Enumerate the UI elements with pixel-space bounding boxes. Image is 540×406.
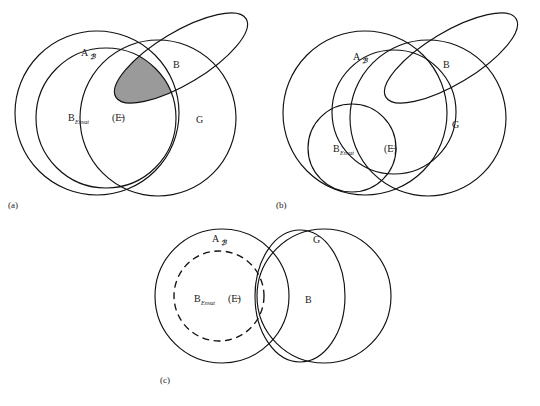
label-e-set-a: (E̶) [112,112,125,124]
label-a-set-c: A [212,233,220,244]
label-b-envat-c: B [194,293,201,304]
label-a-set-b: A [353,51,361,62]
label-b-envat-subscript-c: Envat [200,300,215,306]
label-g-set-b: G [452,119,459,130]
label-g-set-a: G [196,114,203,125]
label-b-set-c: B [305,294,312,305]
label-g-set-c: G [313,234,320,245]
venn-figure: A ℬ B Envat (E̶) B G (a) A ℬ B Envat (E̶… [0,0,540,406]
caption-panel-c: (c) [160,375,170,385]
label-b-set-a: B [173,59,180,70]
label-b-envat-subscript-b: Envat [339,150,354,156]
label-e-set-c: (E̶) [228,293,241,305]
label-a-subscript-b: ℬ [362,57,369,65]
label-a-set-a: A [81,47,89,58]
label-a-subscript-a: ℬ [90,53,97,61]
label-e-set-b: (E̶) [384,143,397,155]
label-b-envat-subscript-a: Envat [74,119,89,125]
label-a-subscript-c: ℬ [221,239,228,247]
label-b-envat-a: B [68,112,75,123]
caption-panel-b: (b) [276,200,287,210]
label-b-set-b: B [443,59,450,70]
label-b-envat-b: B [333,143,340,154]
caption-panel-a: (a) [8,200,18,210]
